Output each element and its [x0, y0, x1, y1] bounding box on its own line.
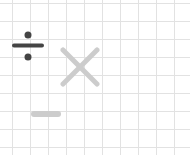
- multiply-icon: [60, 47, 100, 87]
- minus-icon: [30, 110, 62, 118]
- graph-paper-canvas: [0, 0, 190, 155]
- divide-icon: [10, 28, 46, 64]
